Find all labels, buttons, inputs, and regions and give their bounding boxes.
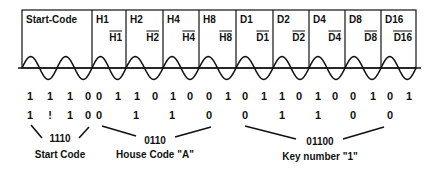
raw-bit: 1 bbox=[261, 90, 267, 102]
group-caption-key: Key number "1" bbox=[282, 151, 358, 162]
raw-bit: 0 bbox=[332, 90, 338, 102]
group-code-house: 0110 bbox=[144, 135, 166, 146]
raw-bit: 1 bbox=[134, 90, 140, 102]
group-caption-house: House Code "A" bbox=[116, 149, 194, 160]
raw-bit: 1 bbox=[225, 90, 231, 102]
decoded-bit-key: 1 bbox=[315, 109, 321, 121]
raw-bit: 0 bbox=[206, 90, 212, 102]
group-code-key: 01100 bbox=[306, 136, 334, 147]
cell-label-d4: D4 bbox=[313, 14, 326, 25]
raw-bit: 0 bbox=[350, 90, 356, 102]
raw-bit: 0 bbox=[242, 90, 248, 102]
decoded-bit-key: 0 bbox=[387, 109, 393, 121]
raw-bit: 0 bbox=[387, 90, 393, 102]
cell-complement-d8: D8 bbox=[364, 32, 377, 43]
decoded-bit-key: 0 bbox=[350, 109, 356, 121]
cell-label-d8: D8 bbox=[349, 14, 362, 25]
decoded-bit-house: 0 bbox=[206, 109, 212, 121]
raw-bit: 0 bbox=[152, 90, 158, 102]
cell-label-d2: D2 bbox=[277, 14, 290, 25]
raw-bit: 1 bbox=[370, 90, 376, 102]
cell-complement-h2: H2 bbox=[146, 32, 159, 43]
bracket-key bbox=[343, 127, 384, 139]
bracket-start bbox=[31, 125, 42, 138]
raw-bit: 1 bbox=[315, 90, 321, 102]
raw-bit: 1 bbox=[47, 90, 53, 102]
decoded-bit-start: 1 bbox=[67, 109, 73, 121]
bracket-start bbox=[79, 127, 89, 138]
decoded-bit-key: 1 bbox=[279, 109, 285, 121]
raw-bit: 1 bbox=[406, 90, 412, 102]
decoded-bit-start: ! bbox=[48, 109, 52, 121]
decoded-bit-house: 0 bbox=[96, 109, 102, 121]
group-caption-start: Start Code bbox=[35, 149, 86, 160]
raw-bit: 1 bbox=[279, 90, 285, 102]
group-code-start: 1110 bbox=[49, 133, 71, 144]
cell-label-d16: D16 bbox=[385, 14, 404, 25]
cell-label-h4: H4 bbox=[167, 14, 180, 25]
cell-label-d1: D1 bbox=[240, 14, 253, 25]
decoded-bit-start: 0 bbox=[85, 109, 91, 121]
raw-bit: 1 bbox=[170, 90, 176, 102]
decoded-bit-house: 1 bbox=[133, 109, 139, 121]
decoded-bit-key: 0 bbox=[242, 109, 248, 121]
raw-bit: 1 bbox=[67, 90, 73, 102]
raw-bit: 0 bbox=[96, 90, 102, 102]
cell-label-h1: H1 bbox=[96, 14, 109, 25]
cell-complement-d2: D2 bbox=[292, 32, 305, 43]
raw-bit: 1 bbox=[27, 90, 33, 102]
group-labels: 1110Start Code0110House Code "A"01100Key… bbox=[35, 133, 358, 162]
x10-frame-diagram: Start-CodeH1H1H2H2H4H4H8H8D1D1D2D2D4D4D8… bbox=[0, 0, 440, 179]
decoded-bit-house: 1 bbox=[169, 109, 175, 121]
cell-label-h2: H2 bbox=[130, 14, 143, 25]
raw-bit-row: 1110011010010110100101 bbox=[27, 90, 412, 102]
cell-label-start: Start-Code bbox=[26, 14, 78, 25]
bracket-house bbox=[175, 127, 211, 137]
cell-complement-h4: H4 bbox=[182, 32, 195, 43]
raw-bit: 0 bbox=[187, 90, 193, 102]
bracket-house bbox=[102, 126, 136, 136]
bracket-key bbox=[245, 126, 296, 139]
decoded-bit-start: 1 bbox=[27, 109, 33, 121]
decoded-bit-row: 1!10011001100 bbox=[27, 109, 393, 121]
cell-complement-d1: D1 bbox=[256, 32, 269, 43]
frame-cells: Start-CodeH1H1H2H2H4H4H8H8D1D1D2D2D4D4D8… bbox=[22, 10, 416, 68]
cell-complement-d16: D16 bbox=[394, 32, 413, 43]
cell-complement-h1: H1 bbox=[109, 32, 122, 43]
raw-bit: 1 bbox=[115, 90, 121, 102]
cell-label-h8: H8 bbox=[203, 14, 216, 25]
raw-bit: 0 bbox=[296, 90, 302, 102]
raw-bit: 0 bbox=[85, 90, 91, 102]
cell-complement-d4: D4 bbox=[328, 32, 341, 43]
cell-complement-h8: H8 bbox=[219, 32, 232, 43]
